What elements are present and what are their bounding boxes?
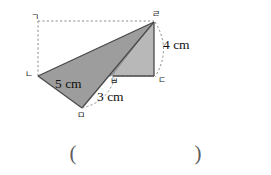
- vertex-label-mieum: ㅁ: [77, 111, 85, 120]
- dimension-label-5cm: 5 cm: [55, 77, 82, 91]
- dimension-label-4cm: 4 cm: [163, 38, 190, 52]
- dimension-label-3cm: 3 cm: [97, 90, 124, 104]
- close-paren: ): [195, 143, 202, 164]
- vertex-label-digeut: ㄷ: [158, 76, 166, 85]
- open-paren: (: [70, 143, 77, 164]
- geometry-figure-container: ㄱ ㄹ ㄴ ㄷ ㅂ ㅁ 5 cm 3 cm 4 cm ( ): [0, 0, 271, 175]
- vertex-label-bieup: ㅂ: [110, 77, 118, 86]
- vertex-label-nieun: ㄴ: [25, 70, 33, 79]
- answer-input-gap[interactable]: [77, 144, 195, 162]
- vertex-label-rieul: ㄹ: [152, 10, 160, 19]
- answer-blank[interactable]: ( ): [0, 136, 271, 170]
- vertex-label-giyeok: ㄱ: [31, 13, 39, 22]
